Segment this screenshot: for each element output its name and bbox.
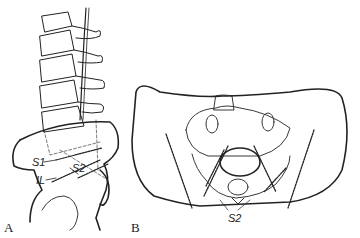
panel-label-a: A	[4, 220, 13, 236]
annotation-s2-b: S2	[228, 212, 241, 224]
spine-lateral-drawing	[40, 8, 105, 132]
annotation-s1: S1	[32, 156, 45, 168]
panel-label-b: B	[131, 220, 140, 236]
annotation-s2-a: S2	[72, 162, 85, 174]
illustration	[0, 0, 360, 238]
screw-paths-b	[166, 130, 314, 208]
annotation-il: IL	[36, 174, 45, 186]
figure: A B S1 IL S2 S2	[0, 0, 360, 238]
pelvis-frontal-drawing	[132, 86, 347, 206]
